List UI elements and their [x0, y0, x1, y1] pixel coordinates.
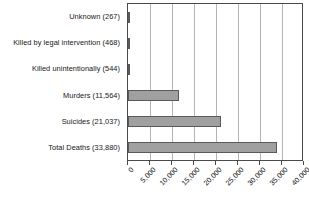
y-axis-label-total-deaths: Total Deaths (33,880)	[0, 135, 124, 161]
bar	[128, 38, 130, 49]
bar-row	[128, 82, 302, 108]
bar	[128, 90, 179, 101]
y-axis-label-murders: Murders (11,564)	[0, 82, 124, 108]
bar-row	[128, 30, 302, 56]
x-axis-tick-label: 5,000	[139, 166, 158, 185]
x-axis-tick-label: 30,000	[246, 166, 267, 187]
y-axis-category-labels: Unknown (267) Killed by legal interventi…	[0, 3, 124, 161]
y-axis-label-suicides: Suicides (21,037)	[0, 108, 124, 134]
bar	[128, 12, 130, 23]
x-axis-tick	[215, 161, 216, 165]
bar-series	[128, 4, 302, 160]
bar	[128, 116, 221, 127]
bar	[128, 64, 130, 75]
x-axis-tick	[237, 161, 238, 165]
x-axis-tick-label: 35,000	[268, 166, 289, 187]
bar-row	[128, 134, 302, 160]
x-axis: 05,00010,00015,00020,00025,00030,00035,0…	[127, 161, 303, 202]
x-axis-tick-label: 15,000	[180, 166, 201, 187]
x-axis-tick	[171, 161, 172, 165]
bar-row	[128, 4, 302, 30]
x-axis-tick-label: 10,000	[158, 166, 179, 187]
x-axis-tick	[193, 161, 194, 165]
y-axis-label-killed-by-legal-intervention: Killed by legal intervention (468)	[0, 29, 124, 55]
x-axis-tick-label: 0	[127, 166, 136, 175]
bar-chart: Unknown (267) Killed by legal interventi…	[0, 0, 309, 202]
x-axis-tick	[281, 161, 282, 165]
y-axis-label-unknown: Unknown (267)	[0, 3, 124, 29]
x-axis-tick	[303, 161, 304, 165]
bar-row	[128, 108, 302, 134]
bar	[128, 142, 277, 153]
x-axis-tick	[149, 161, 150, 165]
x-axis-tick-label: 20,000	[202, 166, 223, 187]
bar-row	[128, 56, 302, 82]
plot-area	[127, 3, 303, 161]
x-axis-tick-label: 40,000	[290, 166, 309, 187]
x-axis-tick	[127, 161, 128, 165]
y-axis-label-killed-unintentionally: Killed unintentionally (544)	[0, 56, 124, 82]
x-axis-tick-label: 25,000	[224, 166, 245, 187]
x-axis-tick	[259, 161, 260, 165]
